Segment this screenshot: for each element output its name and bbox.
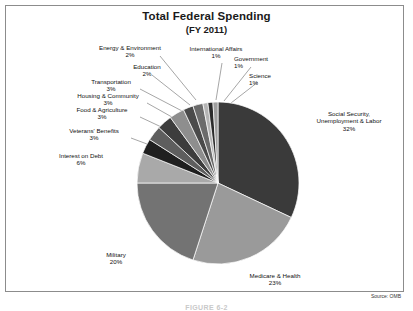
label-science: Science 1% [249, 72, 299, 87]
label-social-security: Social Security, Unemployment & Labor 32… [300, 110, 398, 132]
label-food-agriculture: Food & Agriculture 3% [58, 106, 146, 121]
leader-education [152, 75, 190, 105]
leader-government [224, 67, 251, 101]
label-government: Government 1% [234, 55, 294, 70]
label-education: Education 2% [112, 63, 182, 78]
label-transportation: Transportation 3% [75, 78, 147, 93]
pie-slices [137, 102, 299, 264]
leader-international-affairs [216, 63, 222, 100]
label-military: Military 20% [88, 251, 144, 266]
label-housing-community: Housing & Community 3% [62, 92, 154, 107]
source-note: Source: OMB [371, 293, 401, 299]
figure-caption: FIGURE 6-2 [0, 304, 413, 311]
label-energy-environment: Energy & Environment 2% [85, 44, 175, 59]
label-veterans-benefits: Veterans' Benefits 3% [50, 127, 138, 142]
label-interest-on-debt: Interest on Debt 6% [38, 152, 124, 167]
label-medicare-health: Medicare & Health 23% [235, 272, 315, 287]
